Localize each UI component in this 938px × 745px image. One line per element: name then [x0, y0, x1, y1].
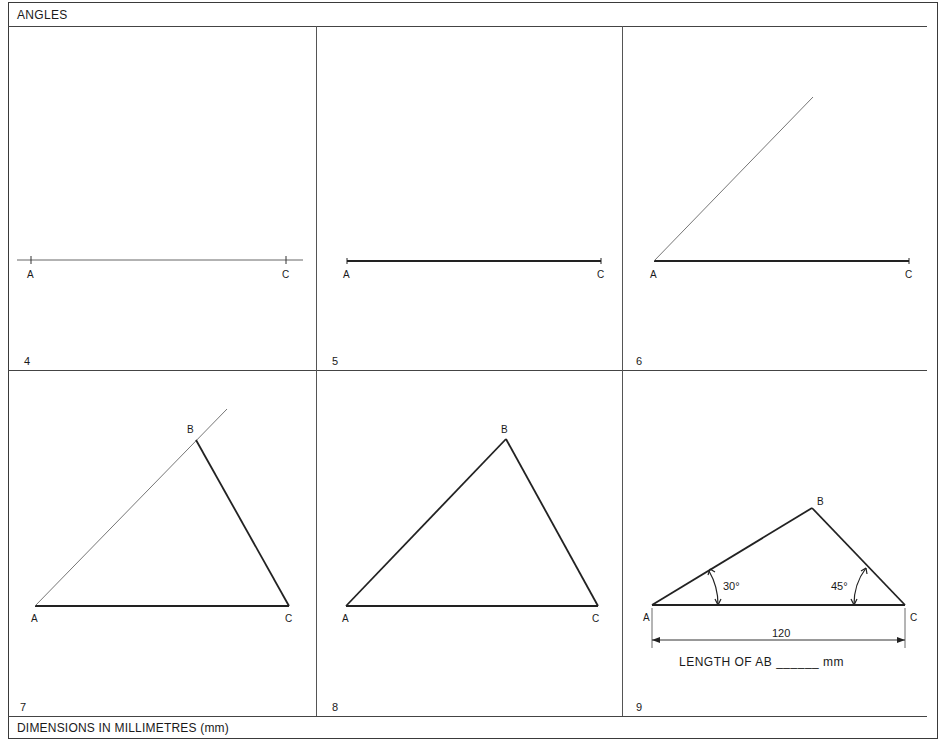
point-c-label: C	[282, 269, 289, 280]
point-b-label: B	[501, 424, 508, 435]
point-c-label: C	[597, 269, 604, 280]
base-length-dimension: 120	[772, 627, 790, 639]
point-a-label: A	[31, 613, 38, 624]
panel-5-drawing	[347, 258, 601, 264]
panel-number-4: 4	[24, 355, 30, 367]
panel-4-drawing	[17, 256, 303, 264]
panel-number-5: 5	[332, 355, 338, 367]
panel-number-6: 6	[636, 355, 642, 367]
point-a-label: A	[27, 269, 34, 280]
point-a-label: A	[343, 269, 350, 280]
point-a-label: A	[650, 269, 657, 280]
panel-7-drawing	[35, 409, 289, 606]
point-c-label: C	[285, 613, 292, 624]
panel-number-7: 7	[20, 701, 26, 713]
point-b-label: B	[187, 424, 194, 435]
point-c-label: C	[905, 269, 912, 280]
point-b-label: B	[817, 496, 824, 507]
units-note: DIMENSIONS IN MILLIMETRES (mm)	[17, 721, 229, 735]
point-c-label: C	[910, 612, 917, 623]
point-a-label: A	[643, 612, 650, 623]
panel-number-9: 9	[636, 701, 642, 713]
panel-8-drawing	[346, 439, 598, 606]
panel-6-drawing	[654, 97, 909, 264]
panel-number-8: 8	[332, 701, 338, 713]
length-question: LENGTH OF AB ______ mm	[679, 655, 844, 669]
angle-c-label: 45°	[831, 580, 848, 592]
point-a-label: A	[342, 613, 349, 624]
angle-a-label: 30°	[723, 580, 740, 592]
point-c-label: C	[592, 613, 599, 624]
